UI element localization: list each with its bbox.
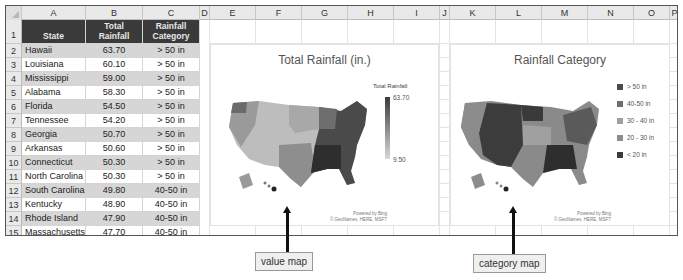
- us-map-value: [219, 85, 379, 205]
- col-A[interactable]: A: [22, 6, 86, 20]
- category-map-title: Rainfall Category: [451, 53, 669, 67]
- cell-state[interactable]: Arkansas: [22, 142, 86, 156]
- category-map-callout: category map: [473, 254, 546, 273]
- cell-total-rainfall[interactable]: 47.70: [86, 226, 143, 236]
- col-O[interactable]: O: [634, 6, 670, 20]
- col-B[interactable]: B: [86, 6, 143, 20]
- row-header[interactable]: 6: [6, 100, 22, 114]
- category-legend-item: > 50 in: [617, 83, 647, 90]
- cell-total-rainfall[interactable]: 59.00: [86, 72, 143, 86]
- category-map-credit: Powered by Bing © GeoNames, HERE, MSFT: [531, 211, 611, 223]
- cell-state[interactable]: Georgia: [22, 128, 86, 142]
- cell-state[interactable]: Mississippi: [22, 72, 86, 86]
- cell-total-rainfall[interactable]: 48.90: [86, 198, 143, 212]
- value-map-callout: value map: [255, 252, 313, 271]
- cell-rainfall-category[interactable]: > 50 in: [143, 72, 200, 86]
- value-legend-title: Total Rainfall: [373, 83, 407, 89]
- col-K[interactable]: K: [450, 6, 496, 20]
- col-F[interactable]: F: [256, 6, 302, 20]
- cell-state[interactable]: Louisiana: [22, 58, 86, 72]
- col-C[interactable]: C: [143, 6, 200, 20]
- col-E[interactable]: E: [210, 6, 256, 20]
- legend-swatch-icon: [617, 118, 623, 124]
- category-map-chart[interactable]: Rainfall Category > 50 in40-50 in30 - 40…: [450, 44, 670, 226]
- col-L[interactable]: L: [496, 6, 542, 20]
- cell-state[interactable]: Tennessee: [22, 114, 86, 128]
- legend-swatch-icon: [617, 101, 623, 107]
- row-header[interactable]: 9: [6, 142, 22, 156]
- row-header[interactable]: 7: [6, 114, 22, 128]
- cell-total-rainfall[interactable]: 63.70: [86, 44, 143, 58]
- category-legend-item: 20 - 30 in: [617, 134, 654, 141]
- cell-rainfall-category[interactable]: > 50 in: [143, 58, 200, 72]
- value-map-arrow: [286, 212, 289, 252]
- cell-rainfall-category[interactable]: > 50 in: [143, 170, 200, 184]
- column-header-bar: A B C D E F G H I J K L M N O P: [6, 6, 677, 20]
- row-header[interactable]: 5: [6, 86, 22, 100]
- cell-rainfall-category[interactable]: > 50 in: [143, 100, 200, 114]
- cell-total-rainfall[interactable]: 47.90: [86, 212, 143, 226]
- row-header-1[interactable]: 1: [6, 20, 22, 44]
- cell-state[interactable]: Alabama: [22, 86, 86, 100]
- row-header[interactable]: 13: [6, 198, 22, 212]
- category-legend-item: < 20 in: [617, 151, 647, 158]
- category-legend-item: 30 - 40 in: [617, 117, 654, 124]
- select-all-corner[interactable]: [6, 6, 22, 20]
- row-header[interactable]: 11: [6, 170, 22, 184]
- cell-total-rainfall[interactable]: 58.30: [86, 86, 143, 100]
- row-header[interactable]: 3: [6, 58, 22, 72]
- cell-total-rainfall[interactable]: 50.70: [86, 128, 143, 142]
- header-state[interactable]: State: [22, 20, 86, 44]
- header-total-rainfall[interactable]: Total Rainfall: [86, 20, 143, 44]
- header-rainfall-category[interactable]: Rainfall Category: [143, 20, 200, 44]
- row-header[interactable]: 2: [6, 44, 22, 58]
- us-map-category: [451, 85, 611, 205]
- cell-state[interactable]: Massachusetts: [22, 226, 86, 236]
- category-map-arrow: [512, 212, 515, 254]
- cell-rainfall-category[interactable]: > 50 in: [143, 128, 200, 142]
- row-header[interactable]: 14: [6, 212, 22, 226]
- value-legend-min: 9.50: [393, 156, 406, 163]
- legend-swatch-icon: [617, 135, 623, 141]
- cell-rainfall-category[interactable]: 40-50 in: [143, 212, 200, 226]
- cell-rainfall-category[interactable]: > 50 in: [143, 44, 200, 58]
- cell-rainfall-category[interactable]: 40-50 in: [143, 184, 200, 198]
- cell-rainfall-category[interactable]: 40-50 in: [143, 226, 200, 236]
- col-H[interactable]: H: [348, 6, 394, 20]
- cell-state[interactable]: South Carolina: [22, 184, 86, 198]
- row-header[interactable]: 4: [6, 72, 22, 86]
- col-N[interactable]: N: [588, 6, 634, 20]
- cell-state[interactable]: Kentucky: [22, 198, 86, 212]
- col-D[interactable]: D: [200, 6, 210, 20]
- cell-total-rainfall[interactable]: 49.80: [86, 184, 143, 198]
- cell-total-rainfall[interactable]: 60.10: [86, 58, 143, 72]
- row-header[interactable]: 12: [6, 184, 22, 198]
- col-J[interactable]: J: [440, 6, 450, 20]
- cell-total-rainfall[interactable]: 50.30: [86, 156, 143, 170]
- cell-state[interactable]: Rhode Island: [22, 212, 86, 226]
- cell-rainfall-category[interactable]: > 50 in: [143, 156, 200, 170]
- cell-rainfall-category[interactable]: > 50 in: [143, 114, 200, 128]
- col-I[interactable]: I: [394, 6, 440, 20]
- cell-total-rainfall[interactable]: 54.20: [86, 114, 143, 128]
- legend-swatch-icon: [617, 84, 623, 90]
- col-P[interactable]: P: [670, 6, 678, 20]
- row-header[interactable]: 10: [6, 156, 22, 170]
- row-header[interactable]: 15: [6, 226, 22, 236]
- col-M[interactable]: M: [542, 6, 588, 20]
- cell-total-rainfall[interactable]: 50.30: [86, 170, 143, 184]
- value-map-chart[interactable]: Total Rainfall (in.) Total Rainfall 63.7…: [210, 44, 439, 226]
- cell-state[interactable]: Connecticut: [22, 156, 86, 170]
- cell-state[interactable]: North Carolina: [22, 170, 86, 184]
- cell-rainfall-category[interactable]: > 50 in: [143, 142, 200, 156]
- cell-rainfall-category[interactable]: > 50 in: [143, 86, 200, 100]
- cell-state[interactable]: Hawaii: [22, 44, 86, 58]
- cell-total-rainfall[interactable]: 54.50: [86, 100, 143, 114]
- cell-total-rainfall[interactable]: 50.60: [86, 142, 143, 156]
- spreadsheet: A B C D E F G H I J K L M N O P 1 State …: [5, 5, 678, 236]
- col-G[interactable]: G: [302, 6, 348, 20]
- cell-state[interactable]: Florida: [22, 100, 86, 114]
- value-legend-max: 63.70: [393, 94, 409, 101]
- cell-rainfall-category[interactable]: 40-50 in: [143, 198, 200, 212]
- row-header[interactable]: 8: [6, 128, 22, 142]
